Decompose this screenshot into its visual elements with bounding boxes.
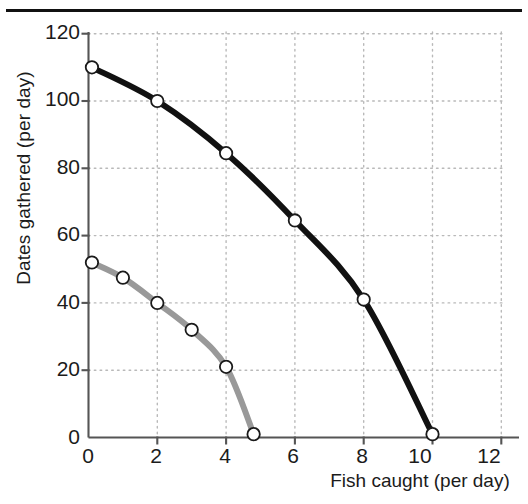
series-line-outer-frontier (92, 67, 433, 434)
data-point-marker (358, 293, 370, 305)
plot-area (0, 0, 528, 504)
series-markers-group (86, 61, 439, 440)
data-point-marker (220, 361, 232, 373)
data-point-marker (220, 147, 232, 159)
data-point-marker (86, 61, 98, 73)
data-point-marker (289, 214, 301, 226)
axes-group (89, 32, 520, 438)
data-point-marker (247, 428, 259, 440)
data-point-marker (151, 297, 163, 309)
gridlines-group (89, 32, 506, 438)
series-line-inner-frontier (92, 263, 254, 435)
data-point-marker (117, 271, 129, 283)
series-lines-group (92, 67, 433, 434)
chart-figure: Dates gathered (per day) Fish caught (pe… (0, 0, 528, 504)
data-point-marker (86, 256, 98, 268)
data-point-marker (426, 428, 438, 440)
data-point-marker (186, 324, 198, 336)
data-point-marker (151, 95, 163, 107)
